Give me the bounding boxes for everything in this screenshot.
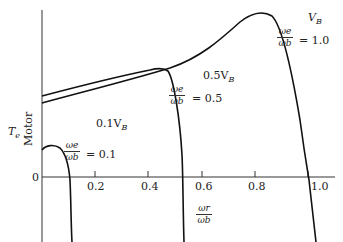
- y-zero-label: 0: [32, 172, 39, 183]
- x-axis-label: ωrωb: [196, 204, 212, 225]
- x-ticks: [95, 171, 308, 177]
- curve-0-5-freq-fraction: ωeωb: [169, 85, 185, 106]
- x-tick-label-0-8: 0.8: [248, 181, 266, 192]
- curve-0-5-voltage-label: 0.5VB: [203, 70, 234, 84]
- curve-0-1-freq-fraction: ωeωb: [64, 141, 80, 162]
- curve-0-1-freq-value: = 0.1: [86, 148, 116, 161]
- curve-1-0-freq-value: = 1.0: [299, 34, 329, 47]
- y-axis-label: Te: [8, 126, 20, 140]
- motor-region-label: Motor: [22, 112, 35, 146]
- curve-1-0-voltage-label: VB: [308, 12, 322, 26]
- curve-0-5-freq-value: = 0.5: [192, 92, 222, 105]
- x-tick-label-0-4: 0.4: [141, 181, 159, 192]
- curve-0-1-voltage-label: 0.1VB: [96, 118, 127, 132]
- x-tick-label-0-2: 0.2: [87, 181, 105, 192]
- x-tick-label-0-6: 0.6: [195, 181, 213, 192]
- curve-1-0-freq-fraction: ωeωb: [277, 27, 293, 48]
- x-tick-label-1-0: 1.0: [311, 181, 329, 192]
